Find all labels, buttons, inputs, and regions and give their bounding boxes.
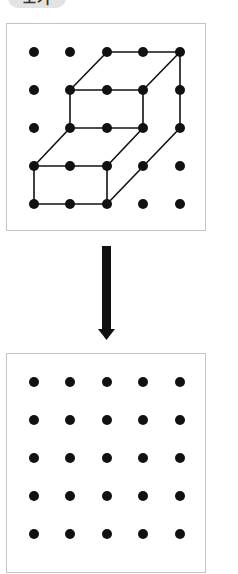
- grid-dot: [138, 377, 148, 387]
- grid-dot: [175, 491, 185, 501]
- grid-dot: [29, 377, 39, 387]
- grid-dot: [138, 453, 148, 463]
- grid-dot: [102, 529, 112, 539]
- grid-dot: [102, 491, 112, 501]
- empty-dot-grid: [7, 354, 207, 574]
- grid-dot: [138, 529, 148, 539]
- bottom-dot-grid-panel: [6, 353, 206, 573]
- grid-dot: [175, 453, 185, 463]
- grid-dot: [102, 415, 112, 425]
- grid-dot: [102, 453, 112, 463]
- grid-dot: [175, 377, 185, 387]
- grid-dot: [65, 491, 75, 501]
- grid-dot: [29, 529, 39, 539]
- grid-dot: [29, 491, 39, 501]
- grid-dot: [102, 377, 112, 387]
- grid-dot: [29, 415, 39, 425]
- grid-dot: [65, 529, 75, 539]
- grid-dot: [138, 415, 148, 425]
- grid-dot: [29, 453, 39, 463]
- grid-dot: [138, 491, 148, 501]
- grid-dot: [175, 415, 185, 425]
- grid-dot: [65, 377, 75, 387]
- grid-dot: [175, 529, 185, 539]
- grid-dot: [65, 415, 75, 425]
- grid-dot: [65, 453, 75, 463]
